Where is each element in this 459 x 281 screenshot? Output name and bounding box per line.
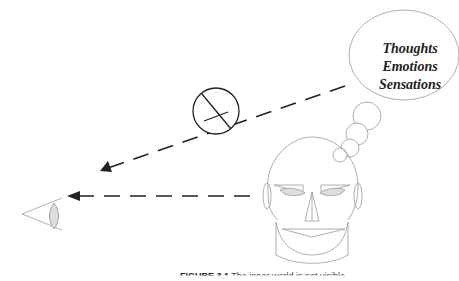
direct-arrow-head [67, 191, 80, 201]
bubble-dot-4 [333, 148, 347, 162]
left-ear [263, 183, 271, 209]
bubble-line-sensations: Sensations [360, 76, 459, 94]
blocked-icon [193, 88, 239, 134]
bubble-text: Thoughts Emotions Sensations [360, 40, 459, 94]
bubble-line-thoughts: Thoughts [360, 40, 459, 58]
eye-icon [22, 198, 62, 230]
bubble-line-emotions: Emotions [360, 58, 459, 76]
